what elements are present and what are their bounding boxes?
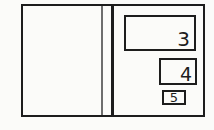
- box-3-label: 3: [177, 31, 194, 49]
- box-3: 3: [124, 15, 196, 51]
- box-5-label: 5: [170, 91, 178, 104]
- left-panel-inner-border: [101, 6, 103, 115]
- box-4-label: 4: [180, 66, 195, 83]
- panel-divider: [111, 6, 114, 115]
- left-panel: [24, 7, 101, 115]
- box-5: 5: [162, 90, 186, 105]
- box-4: 4: [159, 58, 197, 85]
- diagram-stage: 3 4 5: [0, 0, 214, 130]
